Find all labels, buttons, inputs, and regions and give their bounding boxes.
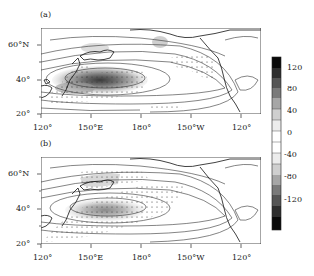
x-tick-b-1: 150°E (78, 253, 103, 262)
x-tick-a-4: 120° (232, 123, 251, 132)
map-panel-b (41, 157, 261, 244)
x-tick-a-2: 180° (132, 123, 151, 132)
y-tick-a-60: 60°N (8, 40, 29, 49)
colorbar (272, 57, 281, 230)
x-tick-b-3: 150°W (177, 253, 205, 262)
y-tick-b-20: 20° (16, 239, 30, 248)
chart-canvas (0, 0, 314, 276)
map-panel-a (41, 28, 261, 114)
colorbar-label-0: 0 (287, 128, 292, 137)
x-tick-a-0: 120° (33, 123, 52, 132)
x-tick-b-4: 120° (232, 253, 251, 262)
x-tick-a-1: 150°E (78, 123, 103, 132)
y-tick-b-40: 40° (16, 204, 30, 213)
colorbar-label-120: 120 (287, 63, 302, 72)
y-tick-b-60: 60°N (8, 169, 29, 178)
x-tick-a-3: 150°W (177, 123, 205, 132)
x-tick-b-0: 120° (33, 253, 52, 262)
y-tick-a-20: 20° (16, 109, 30, 118)
colorbar-label-neg80: -80 (284, 172, 297, 181)
colorbar-label-neg40: -40 (284, 150, 297, 159)
x-tick-b-2: 180° (132, 253, 151, 262)
colorbar-label-40: 40 (287, 106, 297, 115)
colorbar-label-neg120: -120 (284, 195, 302, 204)
y-tick-a-40: 40° (16, 75, 30, 84)
colorbar-label-80: 80 (287, 84, 297, 93)
